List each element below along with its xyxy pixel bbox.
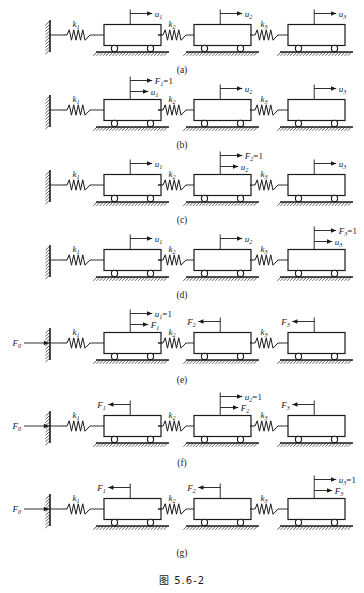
svg-text:k2: k2: [168, 169, 175, 180]
label-f-cart2-bottom: F2: [240, 403, 250, 414]
cart-2-wheel-1: [201, 120, 207, 126]
row-label-b: (b): [162, 140, 202, 150]
figure-caption: 图 5.6-2: [0, 572, 364, 587]
svg-text:F2=1: F2=1: [244, 151, 263, 162]
row-label-d: (d): [162, 290, 202, 300]
label-g-cart3-top: u3=1: [339, 475, 356, 486]
spring-k2: [158, 255, 186, 265]
cart-3-wheel-1: [295, 120, 301, 126]
wall-force-label-f: F0: [11, 421, 22, 432]
row-label-e: (e): [162, 375, 202, 385]
svg-text:F1: F1: [96, 400, 106, 411]
svg-text:u1: u1: [151, 87, 159, 98]
svg-text:u2: u2: [245, 234, 253, 245]
spring-label-k3-f: k3: [260, 410, 267, 421]
svg-text:F3: F3: [280, 317, 290, 328]
cart-3-wheel-2: [331, 195, 337, 201]
cart-2-wheel-1: [201, 436, 207, 442]
spring-k1: [62, 421, 90, 431]
arrow-g-cart3-bottom: [314, 488, 332, 493]
cart-1-wheel-1: [111, 195, 117, 201]
label-c-cart2-top: F2=1: [244, 151, 263, 162]
row-label-f: (f): [162, 458, 202, 468]
svg-text:u2: u2: [241, 162, 249, 173]
cart-1-wheel-2: [147, 270, 153, 276]
cart-2: [194, 416, 251, 443]
label-e-cart1-bottom: F1: [150, 320, 160, 331]
spring-k1: [62, 255, 90, 265]
cart-2: [194, 25, 251, 52]
svg-text:k1: k1: [72, 169, 79, 180]
label-g-cart1-top: F1: [96, 483, 106, 494]
cart-1-wheel-1: [111, 270, 117, 276]
wall-force-label-g: F0: [11, 504, 22, 515]
arrow-e-cart3-top: [292, 319, 314, 324]
cart-2-wheel-2: [237, 519, 243, 525]
svg-text:k2: k2: [168, 493, 175, 504]
cart-3-wheel-2: [331, 120, 337, 126]
label-a-cart1-top: u1: [155, 9, 163, 20]
cart-3: [288, 333, 345, 360]
arrow-g-cart2-top: [198, 485, 220, 490]
svg-text:F3: F3: [280, 400, 290, 411]
cart-3-wheel-2: [331, 436, 337, 442]
svg-text:u1=1: u1=1: [155, 309, 172, 320]
spring-k3: [250, 338, 278, 348]
spring-label-k1-a: k1: [72, 19, 79, 30]
svg-text:k3: k3: [260, 493, 267, 504]
cart-2-wheel-2: [237, 45, 243, 51]
svg-text:u1: u1: [155, 159, 163, 170]
spring-k3: [250, 504, 278, 514]
label-b-cart1-bottom: u1: [151, 87, 159, 98]
wall-force-arrow-e: [24, 341, 49, 346]
cart-3-wheel-1: [295, 436, 301, 442]
svg-text:u3: u3: [339, 9, 347, 20]
spring-k1: [62, 180, 90, 190]
svg-text:k3: k3: [260, 410, 267, 421]
arrow-a-cart1-top: [130, 11, 152, 16]
spring-k3: [250, 421, 278, 431]
svg-text:u1: u1: [155, 234, 163, 245]
svg-text:k1: k1: [72, 493, 79, 504]
arrow-b-cart3-top: [314, 86, 336, 91]
svg-text:F2: F2: [240, 403, 250, 414]
spring-label-k1-g: k1: [72, 493, 79, 504]
cart-3: [288, 250, 345, 277]
label-b-cart3-top: u3: [339, 84, 347, 95]
label-c-cart2-bottom: u2: [241, 162, 249, 173]
spring-label-k1-b: k1: [72, 94, 79, 105]
spring-label-k2-f: k2: [168, 410, 175, 421]
arrow-a-cart2-top: [220, 11, 242, 16]
cart-1-wheel-1: [111, 120, 117, 126]
svg-text:F0: F0: [11, 504, 22, 515]
label-a-cart2-top: u2: [245, 9, 253, 20]
cart-3: [288, 499, 345, 526]
svg-text:u3: u3: [339, 159, 347, 170]
svg-text:F2: F2: [186, 483, 196, 494]
spring-label-k1-c: k1: [72, 169, 79, 180]
cart-2-wheel-2: [237, 195, 243, 201]
cart-1-wheel-2: [147, 353, 153, 359]
arrow-c-cart3-top: [314, 161, 336, 166]
cart-2-wheel-1: [201, 270, 207, 276]
cart-1: [104, 416, 161, 443]
svg-text:u3=1: u3=1: [339, 475, 356, 486]
spring-label-k1-d: k1: [72, 244, 79, 255]
svg-text:F1: F1: [96, 483, 106, 494]
cart-1: [104, 25, 161, 52]
spring-label-k2-g: k2: [168, 493, 175, 504]
svg-text:k1: k1: [72, 19, 79, 30]
cart-3: [288, 175, 345, 202]
spring-label-k3-d: k3: [260, 244, 267, 255]
arrow-e-cart2-top: [198, 319, 220, 324]
cart-2-wheel-2: [237, 120, 243, 126]
cart-1-wheel-1: [111, 519, 117, 525]
cart-3-wheel-2: [331, 270, 337, 276]
cart-3-wheel-2: [331, 353, 337, 359]
row-label-a: (a): [162, 65, 202, 75]
label-f-cart1-top: F1: [96, 400, 106, 411]
cart-2-wheel-1: [201, 45, 207, 51]
svg-text:k1: k1: [72, 94, 79, 105]
arrow-f-cart2-top: [220, 394, 242, 399]
cart-1-wheel-1: [111, 353, 117, 359]
